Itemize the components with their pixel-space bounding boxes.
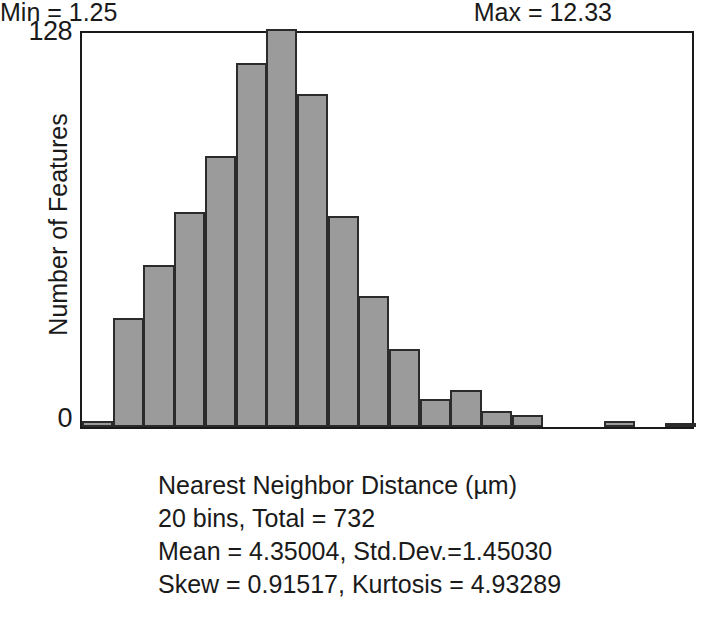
histogram-bar — [665, 423, 696, 427]
plot-area — [80, 31, 694, 429]
max-label: Max = 12.33 — [474, 0, 612, 25]
histogram-bar — [82, 421, 113, 427]
histogram-bar — [266, 29, 297, 427]
histogram-bar — [143, 265, 174, 427]
histogram-bar — [113, 318, 144, 427]
bins-total-label: 20 bins, Total = 732 — [158, 506, 375, 531]
histogram-bar — [174, 212, 205, 427]
histogram-bar — [604, 421, 635, 427]
histogram-bar — [481, 411, 512, 427]
histogram-bars — [82, 33, 692, 427]
histogram-bar — [297, 94, 328, 427]
histogram-bar — [450, 390, 481, 427]
histogram-bar — [389, 349, 420, 427]
mean-stddev-label: Mean = 4.35004, Std.Dev.=1.45030 — [158, 539, 552, 564]
minmax-row: Min = 1.25 Max = 12.33 — [0, 0, 612, 25]
histogram-bar — [205, 156, 236, 427]
histogram-bar — [420, 399, 451, 427]
histogram-bar — [328, 216, 359, 427]
histogram-figure: 128 0 Number of Features Min = 1.25 Max … — [0, 0, 723, 629]
y-axis-tick-zero: 0 — [8, 405, 72, 432]
y-axis-tick-top: 128 — [8, 18, 72, 45]
skew-kurtosis-label: Skew = 0.91517, Kurtosis = 4.93289 — [158, 572, 561, 597]
histogram-bar — [236, 63, 267, 427]
histogram-bar — [358, 296, 389, 427]
x-axis-title: Nearest Neighbor Distance (µm) — [158, 473, 517, 498]
y-axis-title: Number of Features — [46, 55, 71, 395]
histogram-bar — [512, 415, 543, 427]
